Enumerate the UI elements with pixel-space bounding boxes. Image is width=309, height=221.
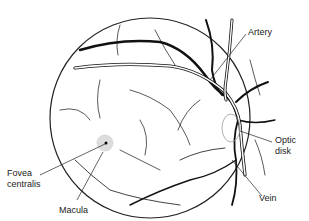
label-fovea: Fovea: [7, 168, 32, 178]
label-artery: Artery: [248, 27, 272, 37]
label-vein: Vein: [259, 193, 277, 203]
retina-boundary: [50, 18, 250, 218]
label-macula: Macula: [59, 205, 88, 215]
label-optic: Optic: [275, 135, 296, 145]
label-disk: disk: [275, 146, 291, 156]
label-centralis: centralis: [7, 179, 41, 189]
